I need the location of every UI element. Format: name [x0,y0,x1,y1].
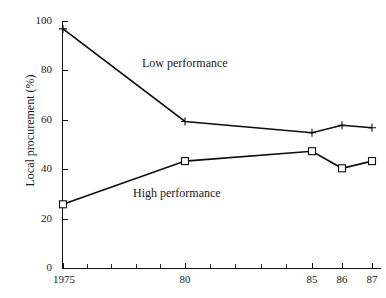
y-tick-label-100: 100 [18,15,52,26]
series-low-performance-line [63,29,372,133]
y-tick-label-40: 40 [18,163,52,174]
x-tick-label-85: 85 [299,274,325,285]
x-tick-label-87: 87 [359,274,385,285]
x-tick-label-86: 86 [329,274,355,285]
series-low-performance [59,25,376,137]
y-tick-label-20: 20 [18,213,52,224]
y-tick-label-0: 0 [18,262,52,273]
y-axis-ticks [63,22,69,269]
y-tick-label-60: 60 [18,114,52,125]
x-tick-label-80: 80 [172,274,198,285]
x-axis-minor-ticks [87,264,286,269]
series-label-low-performance: Low performance [142,57,228,70]
y-tick-label-80: 80 [18,64,52,75]
x-axis-major-ticks [63,263,372,269]
series-low-performance-markers [59,25,376,137]
chart-figure: Local procurement (%) 100 80 60 40 20 0 … [0,0,386,298]
chart-plot-area [0,0,386,298]
x-tick-label-1975: 1975 [45,274,83,285]
series-label-high-performance: High performance [133,187,221,200]
